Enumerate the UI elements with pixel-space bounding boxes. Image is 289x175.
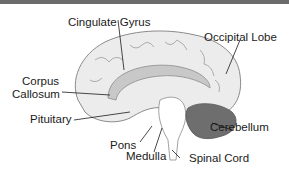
label-pituitary: Pituitary bbox=[30, 113, 72, 125]
label-cerebellum: Cerebellum bbox=[210, 121, 269, 133]
label-corpus: Corpus bbox=[22, 75, 59, 87]
label-cingulate-gyrus: Cingulate Gyrus bbox=[68, 16, 150, 28]
label-callosum: Callosum bbox=[12, 88, 60, 100]
label-spinal-cord: Spinal Cord bbox=[189, 152, 249, 164]
label-medulla: Medulla bbox=[126, 150, 166, 162]
label-occipital-lobe: Occipital Lobe bbox=[204, 31, 277, 43]
